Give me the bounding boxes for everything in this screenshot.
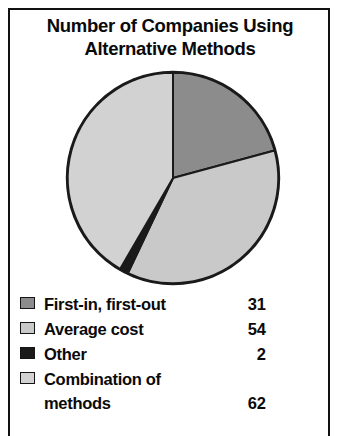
chart-title-line-2: Alternative Methods xyxy=(14,37,326,60)
legend-swatch-combination-of-methods xyxy=(20,372,35,384)
pie-svg xyxy=(61,66,285,290)
chart-legend: First-in, first-out 31 Average cost 54 O… xyxy=(18,292,318,415)
legend-value-first-in-first-out: 31 xyxy=(248,292,266,316)
legend-label-first-in-first-out: First-in, first-out xyxy=(44,292,166,316)
legend-row-average-cost[interactable]: Average cost 54 xyxy=(18,317,318,342)
legend-label-other: Other xyxy=(44,342,87,366)
legend-row-first-in-first-out[interactable]: First-in, first-out 31 xyxy=(18,292,318,317)
legend-row-other[interactable]: Other 2 xyxy=(18,342,318,367)
legend-row-combination-of-methods[interactable]: Combination of methods 62 xyxy=(18,367,318,415)
legend-value-average-cost: 54 xyxy=(248,317,266,341)
pie-plot-area xyxy=(61,66,285,290)
legend-swatch-first-in-first-out xyxy=(20,297,35,309)
chart-title: Number of Companies Using Alternative Me… xyxy=(14,14,326,60)
legend-label-average-cost: Average cost xyxy=(44,317,143,341)
chart-title-line-1: Number of Companies Using xyxy=(14,14,326,37)
legend-swatch-average-cost xyxy=(20,322,35,334)
legend-label-combination-of-methods: Combination of methods xyxy=(44,367,161,415)
legend-swatch-other xyxy=(20,347,35,359)
legend-value-combination-of-methods: 62 xyxy=(248,391,266,415)
pie-slices-group xyxy=(68,73,278,283)
legend-value-other: 2 xyxy=(257,342,266,366)
